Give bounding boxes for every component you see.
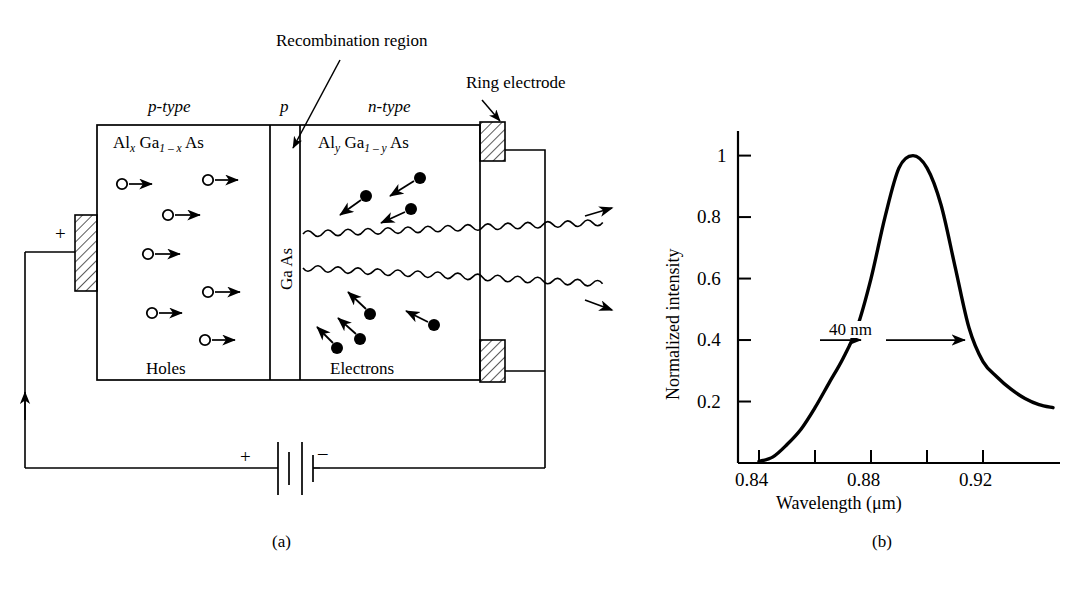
x-tick-marks (759, 450, 983, 463)
x-tick-label: 0.84 (735, 470, 768, 489)
figure-root: Recombination region Ring electrode p-ty… (0, 0, 1079, 592)
spectrum-curve (759, 156, 1053, 462)
y-tick-label: 1 (717, 146, 727, 165)
y-axis-title: Normalized intensity (664, 249, 682, 400)
y-tick-label: 0.6 (697, 269, 721, 288)
caption-panel-b: (b) (872, 533, 892, 550)
x-tick-label: 0.88 (847, 470, 880, 489)
panel-b-chart (0, 0, 1079, 592)
x-axis-title-text: Wavelength (μm) (776, 493, 902, 513)
chart-axes (738, 131, 1060, 463)
y-tick-label: 0.4 (697, 330, 721, 349)
y-tick-label: 0.2 (697, 392, 721, 411)
fwhm-annotation-label: 40 nm (824, 321, 877, 338)
y-tick-marks (738, 156, 751, 402)
y-tick-label: 0.8 (697, 207, 721, 226)
x-tick-label: 0.92 (959, 470, 992, 489)
x-axis-title: Wavelength (μm) (776, 494, 902, 512)
